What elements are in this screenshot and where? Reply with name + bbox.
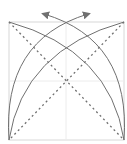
fold-diagram bbox=[0, 0, 127, 144]
arrow-left-icon bbox=[44, 14, 125, 140]
